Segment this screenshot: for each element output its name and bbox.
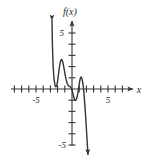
y-tick-label-5: 5 [60, 28, 65, 38]
plot-area: -5 5 5 -5 f(x) x [0, 0, 150, 157]
x-tick-label--5: -5 [32, 95, 40, 105]
y-tick-label--5: -5 [59, 140, 67, 150]
y-axis-label: f(x) [63, 6, 78, 18]
function-graph-figure: -5 5 5 -5 f(x) x [0, 0, 150, 157]
x-axis-label: x [136, 84, 142, 95]
x-tick-label-5: 5 [106, 95, 111, 105]
